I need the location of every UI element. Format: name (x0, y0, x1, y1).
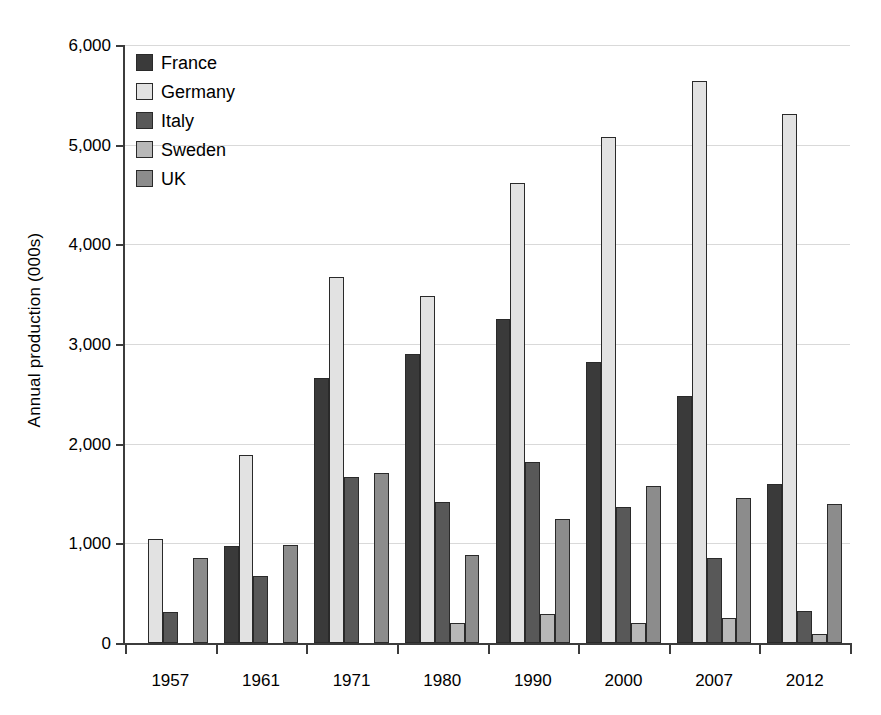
bar-france-1961[interactable] (224, 546, 239, 643)
bar-slot (525, 45, 540, 643)
legend-item-uk[interactable]: UK (136, 168, 235, 189)
bar-france-1980[interactable] (405, 354, 420, 643)
bar-slot (677, 45, 692, 643)
bar-germany-1961[interactable] (239, 455, 254, 643)
legend-label: Italy (161, 112, 194, 130)
bar-slot (692, 45, 707, 643)
bar-slot (314, 45, 329, 643)
bar-sweden-2007[interactable] (722, 618, 737, 643)
legend-item-france[interactable]: France (136, 52, 235, 73)
legend-item-sweden[interactable]: Sweden (136, 139, 235, 160)
y-tick-mark (116, 344, 125, 346)
bar-france-1971[interactable] (314, 378, 329, 643)
bar-italy-1971[interactable] (344, 477, 359, 643)
bar-italy-1980[interactable] (435, 502, 450, 643)
y-tick-label: 3,000 (39, 336, 111, 353)
bar-slot (586, 45, 601, 643)
legend-label: Germany (161, 83, 235, 101)
legend-item-germany[interactable]: Germany (136, 81, 235, 102)
bar-chart-figure: Annual production (000s) 01,0002,0003,00… (0, 0, 881, 715)
y-tick-mark (116, 244, 125, 246)
bar-sweden-1990[interactable] (540, 614, 555, 643)
bar-slot (827, 45, 842, 643)
bar-slot (722, 45, 737, 643)
bar-slot (797, 45, 812, 643)
bar-slot (555, 45, 570, 643)
y-tick-label: 1,000 (39, 535, 111, 552)
bar-slot (601, 45, 616, 643)
bar-uk-2012[interactable] (827, 504, 842, 643)
bar-italy-1957[interactable] (163, 612, 178, 643)
bar-france-1990[interactable] (496, 319, 511, 643)
bar-group: 2007 (669, 45, 760, 643)
bar-slot (405, 45, 420, 643)
legend-label: Sweden (161, 141, 226, 159)
bar-germany-2007[interactable] (692, 81, 707, 643)
bar-germany-1980[interactable] (420, 296, 435, 643)
bar-germany-1990[interactable] (510, 183, 525, 643)
x-tick-mark (216, 643, 218, 654)
bar-slot (496, 45, 511, 643)
bar-france-2012[interactable] (767, 484, 782, 643)
x-tick-mark (306, 643, 308, 654)
y-tick-mark (116, 444, 125, 446)
bar-uk-1971[interactable] (374, 473, 389, 643)
bar-slot (782, 45, 797, 643)
bar-italy-2000[interactable] (616, 507, 631, 643)
bar-uk-2007[interactable] (736, 498, 751, 644)
bar-germany-1957[interactable] (148, 539, 163, 643)
y-tick-mark (116, 45, 125, 47)
legend-swatch-germany (136, 83, 153, 100)
y-tick-mark (116, 543, 125, 545)
bar-slot (812, 45, 827, 643)
bar-slot (616, 45, 631, 643)
bar-italy-2012[interactable] (797, 611, 812, 643)
bar-slot (631, 45, 646, 643)
x-tick-label-2012: 2012 (745, 671, 865, 691)
bar-uk-1957[interactable] (193, 558, 208, 643)
x-tick-mark (397, 643, 399, 654)
bar-italy-2007[interactable] (707, 558, 722, 643)
x-tick-mark (759, 643, 761, 654)
y-tick-label: 6,000 (39, 37, 111, 54)
bar-slot (465, 45, 480, 643)
bar-group: 1980 (397, 45, 488, 643)
bar-uk-2000[interactable] (646, 486, 661, 643)
bar-group: 2012 (759, 45, 850, 643)
bar-slot (540, 45, 555, 643)
bar-uk-1980[interactable] (465, 555, 480, 643)
y-tick-label: 0 (39, 635, 111, 652)
legend-swatch-sweden (136, 141, 153, 158)
legend-swatch-uk (136, 170, 153, 187)
legend-item-italy[interactable]: Italy (136, 110, 235, 131)
bar-germany-2000[interactable] (601, 137, 616, 643)
bar-france-2007[interactable] (677, 396, 692, 643)
bar-uk-1990[interactable] (555, 519, 570, 643)
bar-slot (253, 45, 268, 643)
legend-swatch-italy (136, 112, 153, 129)
bar-germany-1971[interactable] (329, 277, 344, 643)
x-tick-mark (125, 643, 127, 654)
y-tick-mark (116, 643, 125, 645)
y-tick-label: 4,000 (39, 236, 111, 253)
bar-uk-1961[interactable] (283, 545, 298, 643)
bar-group: 2000 (578, 45, 669, 643)
bar-slot (767, 45, 782, 643)
bar-slot (283, 45, 298, 643)
bar-sweden-2012[interactable] (812, 634, 827, 643)
bar-slot (374, 45, 389, 643)
bar-italy-1990[interactable] (525, 462, 540, 643)
bar-slot (344, 45, 359, 643)
bar-slot (736, 45, 751, 643)
bar-slot (420, 45, 435, 643)
bar-italy-1961[interactable] (253, 576, 268, 643)
bar-germany-2012[interactable] (782, 114, 797, 643)
x-tick-mark (488, 643, 490, 654)
bar-sweden-2000[interactable] (631, 623, 646, 643)
bar-group: 1971 (306, 45, 397, 643)
legend-label: France (161, 54, 217, 72)
bar-slot (646, 45, 661, 643)
bar-sweden-1980[interactable] (450, 623, 465, 643)
bar-france-2000[interactable] (586, 362, 601, 643)
y-tick-label: 2,000 (39, 435, 111, 452)
